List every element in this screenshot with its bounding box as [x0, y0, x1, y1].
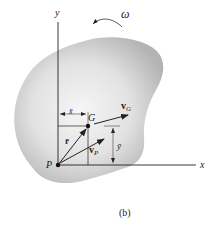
v-g-label: vG — [121, 101, 131, 113]
y-bar-label: ȳ — [117, 142, 121, 151]
x-bar-label: x̄ — [69, 108, 73, 116]
point-g-label: G — [88, 113, 95, 123]
v-p-label: vP — [89, 145, 98, 157]
omega-label: ω — [121, 8, 129, 20]
v-p-subscript: P — [94, 149, 98, 157]
figure-caption: (b) — [119, 208, 131, 218]
rigid-body-shape — [14, 37, 163, 183]
v-g-subscript: G — [126, 105, 131, 113]
point-g — [86, 124, 90, 128]
rigid-body-kinematics-diagram — [0, 0, 218, 230]
angular-velocity-arrow — [93, 19, 122, 27]
y-axis-label: y — [55, 8, 59, 18]
x-axis-label: x — [200, 160, 204, 170]
r-bar-label: r̄ — [65, 137, 69, 146]
point-p — [56, 163, 60, 167]
point-p-label: P — [46, 160, 52, 170]
